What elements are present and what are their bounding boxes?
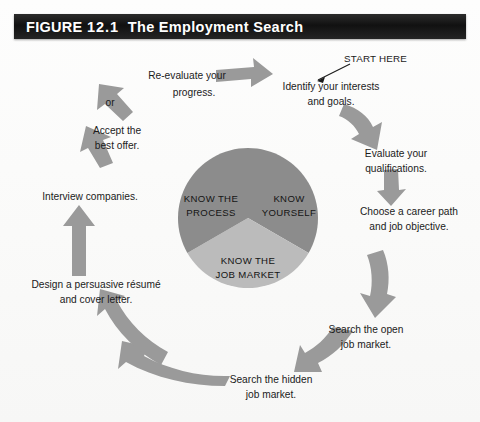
arrow-to-choose-career-path [377,169,406,206]
arrow-to-search-open-market [360,250,396,318]
wedge-label-know-the-job-market-line2: JOB MARKET [216,269,281,280]
wedge-label-know-the-process-line1: KNOW THE [184,193,238,204]
step-search-open-market-line2: job market. [340,339,391,350]
step-search-hidden-market-line2: job market. [245,389,296,400]
start-here-marker: START HERE [317,53,407,83]
wedge-label-know-the-process-line2: PROCESS [186,207,235,218]
arrow-to-evaluate [339,104,382,150]
wedge-label-know-the-job-market-line1: KNOW THE [221,255,275,266]
step-choose-career-path-line1: Choose a career path [360,206,458,217]
step-search-hidden-market-line1: Search the hidden [230,374,313,385]
step-re-evaluate-progress-line1: Re-evaluate your [148,70,226,81]
arrow-to-interview-companies [63,205,95,276]
step-design-resume: Design a persuasive résumé and cover let… [31,279,160,305]
step-design-resume-line1: Design a persuasive résumé [31,279,160,290]
branch-or-label: or [105,97,115,108]
step-choose-career-path: Choose a career path and job objective. [360,206,458,232]
arrow-to-design-resume [118,341,230,386]
step-design-resume-line2: and cover letter. [60,294,133,305]
step-identify-interests-line1: Identify your interests [283,81,380,92]
step-re-evaluate-progress: Re-evaluate your progress. [148,70,226,98]
step-evaluate-qualifications-line2: qualifications. [365,163,427,174]
step-interview-companies: Interview companies. [42,191,138,202]
step-identify-interests-line2: and goals. [307,96,354,107]
arrow-to-re-evaluate-progress [97,84,133,121]
step-evaluate-qualifications: Evaluate your qualifications. [365,148,428,174]
step-accept-best-offer-line1: Accept the [93,125,141,136]
step-identify-interests: Identify your interests and goals. [283,81,380,107]
step-search-open-market-line1: Search the open [329,324,404,335]
wedge-label-know-yourself-line1: KNOW [273,193,305,204]
know-wheel: KNOW YOURSELF KNOW THE JOB MARKET KNOW T… [178,148,318,288]
step-re-evaluate-progress-line2: progress. [173,87,215,98]
step-interview-companies-line1: Interview companies. [42,191,138,202]
figure-container: FIGURE 12.1 The Employment Search KNOW Y… [0,0,480,422]
wedge-label-know-yourself-line2: YOURSELF [262,207,317,218]
step-search-hidden-market: Search the hidden job market. [230,374,313,400]
start-here-label: START HERE [344,53,407,64]
step-accept-best-offer-line2: best offer. [95,140,140,151]
step-choose-career-path-line2: and job objective. [369,221,448,232]
start-here-arrow-icon [318,64,350,80]
employment-search-diagram: KNOW YOURSELF KNOW THE JOB MARKET KNOW T… [0,0,480,422]
step-evaluate-qualifications-line1: Evaluate your [365,148,428,159]
